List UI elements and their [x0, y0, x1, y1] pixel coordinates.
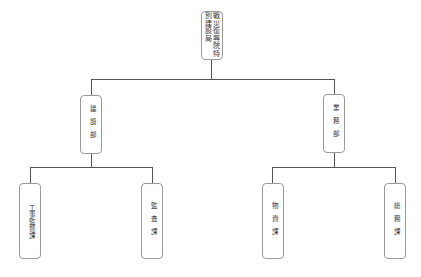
- dept-label-operations: 業務部: [330, 104, 338, 143]
- section-label-materials: 物資課: [269, 202, 277, 241]
- dept-right-up-connector: [334, 79, 335, 95]
- dept-left-up-connector: [91, 79, 92, 95]
- dept-node-operations: 業務部: [323, 94, 345, 153]
- section4-up-connector: [395, 167, 396, 183]
- root-label-col1: 戦災復興院: [212, 12, 220, 50]
- section-node-materials: 物資課: [262, 183, 284, 259]
- dept-node-construction: 建設部: [80, 95, 102, 154]
- section2-up-connector: [152, 167, 153, 183]
- root-down-connector: [211, 60, 212, 79]
- left-sections-horizontal-connector: [30, 167, 153, 168]
- section-label-general-affairs: 総務課: [391, 202, 399, 241]
- root-node-label: 戦災復興院特別建設局: [204, 12, 220, 59]
- section3-up-connector: [272, 167, 273, 183]
- section-label-audit: 監査課: [148, 202, 156, 241]
- dept-left-down-connector: [91, 154, 92, 167]
- right-sections-horizontal-connector: [272, 167, 396, 168]
- level1-horizontal-connector: [91, 79, 335, 80]
- section-node-construction-supervision: 工事監督課: [19, 183, 41, 259]
- section-label-construction-supervision: 工事監督課: [26, 204, 34, 239]
- section1-up-connector: [30, 167, 31, 183]
- section-node-audit: 監査課: [141, 183, 163, 259]
- dept-label-construction: 建設部: [87, 105, 95, 144]
- section-node-general-affairs: 総務課: [384, 183, 406, 259]
- root-node: 戦災復興院特別建設局: [201, 11, 223, 60]
- dept-right-down-connector: [334, 153, 335, 167]
